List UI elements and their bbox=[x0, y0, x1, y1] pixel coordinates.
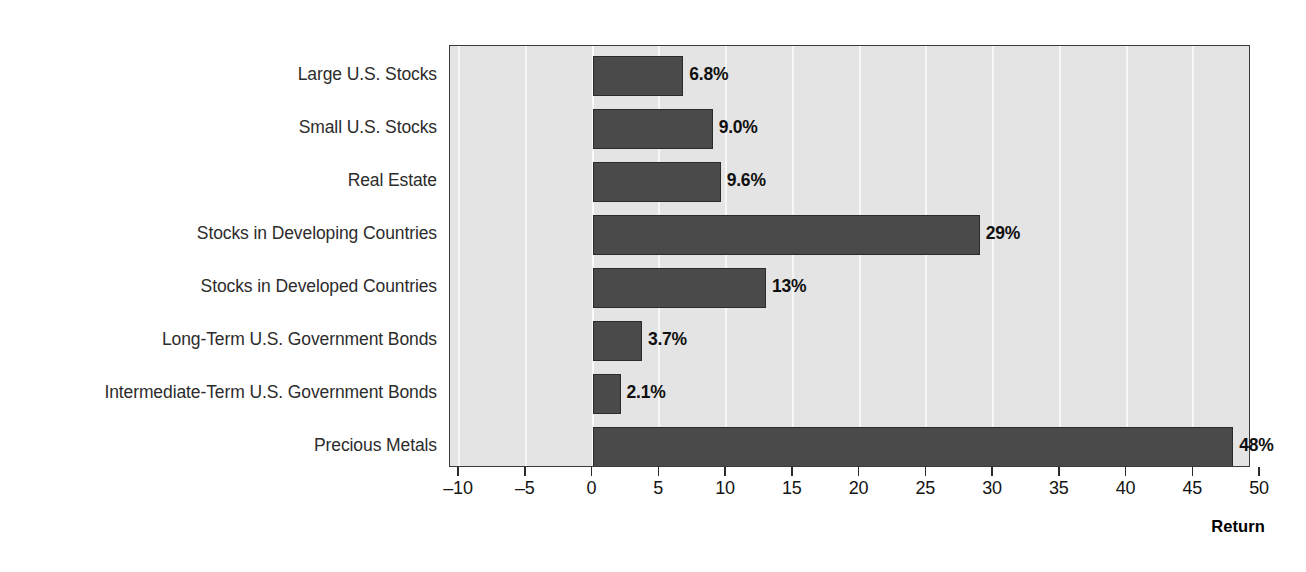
bar-chart: 6.8%Large U.S. Stocks9.0%Small U.S. Stoc… bbox=[0, 0, 1306, 572]
x-tick-label: 10 bbox=[695, 479, 755, 497]
plot-area bbox=[449, 45, 1250, 467]
gridline bbox=[859, 46, 861, 466]
bar bbox=[593, 109, 713, 149]
category-label: Precious Metals bbox=[314, 437, 437, 455]
x-tick-mark bbox=[1125, 467, 1127, 476]
gridline bbox=[925, 46, 927, 466]
bar-value-label: 9.0% bbox=[719, 119, 758, 137]
bar-value-label: 13% bbox=[772, 278, 806, 296]
bar-value-label: 29% bbox=[986, 225, 1020, 243]
bar-value-label: 48% bbox=[1239, 437, 1273, 455]
x-tick-label: –5 bbox=[495, 479, 555, 497]
x-tick-label: 45 bbox=[1162, 479, 1222, 497]
x-tick-label: 50 bbox=[1229, 479, 1289, 497]
x-tick-mark bbox=[791, 467, 793, 476]
bar bbox=[593, 374, 621, 414]
bar bbox=[593, 215, 980, 255]
category-label: Long-Term U.S. Government Bonds bbox=[162, 331, 437, 349]
bar-value-label: 3.7% bbox=[648, 331, 687, 349]
gridline bbox=[525, 46, 527, 466]
gridline bbox=[992, 46, 994, 466]
gridline bbox=[1192, 46, 1194, 466]
x-tick-label: –10 bbox=[428, 479, 488, 497]
x-tick-mark bbox=[724, 467, 726, 476]
gridline bbox=[792, 46, 794, 466]
x-axis-title: Return bbox=[1211, 518, 1265, 535]
x-tick-mark bbox=[658, 467, 660, 476]
gridline bbox=[1059, 46, 1061, 466]
gridline bbox=[458, 46, 460, 466]
x-tick-mark bbox=[991, 467, 993, 476]
x-tick-mark bbox=[1058, 467, 1060, 476]
x-tick-label: 30 bbox=[962, 479, 1022, 497]
category-label: Small U.S. Stocks bbox=[299, 119, 437, 137]
category-label: Stocks in Developed Countries bbox=[201, 278, 437, 296]
x-tick-mark bbox=[1192, 467, 1194, 476]
x-tick-label: 0 bbox=[562, 479, 622, 497]
x-tick-mark bbox=[524, 467, 526, 476]
category-label: Stocks in Developing Countries bbox=[197, 225, 437, 243]
bar bbox=[593, 427, 1234, 467]
bar bbox=[593, 162, 721, 202]
bar bbox=[593, 268, 767, 308]
category-label: Real Estate bbox=[348, 172, 437, 190]
x-tick-label: 15 bbox=[762, 479, 822, 497]
gridline bbox=[725, 46, 727, 466]
x-tick-label: 35 bbox=[1029, 479, 1089, 497]
category-label: Intermediate-Term U.S. Government Bonds bbox=[104, 384, 437, 402]
x-tick-label: 40 bbox=[1096, 479, 1156, 497]
bar-value-label: 9.6% bbox=[727, 172, 766, 190]
x-tick-mark bbox=[1258, 467, 1260, 476]
x-tick-mark bbox=[591, 467, 593, 476]
bar bbox=[593, 321, 642, 361]
bar-value-label: 6.8% bbox=[689, 66, 728, 84]
bar bbox=[593, 56, 684, 96]
x-tick-mark bbox=[858, 467, 860, 476]
x-tick-label: 25 bbox=[895, 479, 955, 497]
category-label: Large U.S. Stocks bbox=[298, 66, 437, 84]
x-tick-label: 5 bbox=[628, 479, 688, 497]
gridline bbox=[1126, 46, 1128, 466]
x-tick-mark bbox=[925, 467, 927, 476]
x-tick-mark bbox=[457, 467, 459, 476]
bar-value-label: 2.1% bbox=[627, 384, 666, 402]
x-tick-label: 20 bbox=[829, 479, 889, 497]
